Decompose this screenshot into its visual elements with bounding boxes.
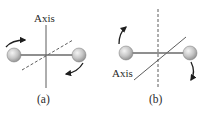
axis-label-b: Axis [112, 67, 133, 79]
rotating-dumbbell-diagram: Axis (a) Axis (b) [0, 0, 206, 114]
rotation-arrow-icon [6, 40, 25, 47]
rotation-arrow-icon [119, 27, 126, 44]
panel-b: Axis (b) [112, 9, 197, 106]
axis-line-b [134, 37, 186, 80]
rotation-arrow-icon [191, 62, 194, 80]
ball-left-a [7, 48, 21, 62]
caption-a: (a) [37, 93, 50, 106]
panel-a: Axis (a) [6, 12, 86, 106]
axis-label-a: Axis [34, 12, 55, 24]
caption-b: (b) [149, 93, 163, 106]
ball-right-b [183, 46, 197, 60]
ball-left-b [119, 46, 133, 60]
rotation-arrow-icon [66, 63, 83, 74]
ball-right-a [72, 48, 86, 62]
